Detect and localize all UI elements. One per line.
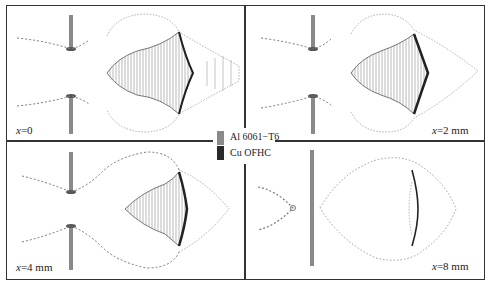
simulation-plot xyxy=(246,142,484,277)
legend-label-aluminum: Al 6061−T6 xyxy=(230,131,279,142)
panel-label: x=0 xyxy=(16,124,33,136)
variable-value: =0 xyxy=(21,124,33,136)
copper-swatch-icon xyxy=(217,146,224,160)
variable-value: =2 mm xyxy=(437,124,469,136)
aluminum-swatch-icon xyxy=(217,131,224,145)
panel-label: x=8 mm xyxy=(432,260,468,272)
simulation-plot xyxy=(246,6,484,141)
simulation-plot xyxy=(7,6,245,141)
panel-x4mm: x=4 mm xyxy=(7,142,245,277)
panel-label: x=2 mm xyxy=(432,124,468,136)
panel-x0: x=0 xyxy=(7,6,245,141)
simulation-plot xyxy=(7,142,245,277)
variable-value: =8 mm xyxy=(437,260,469,272)
panel-label: x=4 mm xyxy=(16,261,52,273)
material-legend: Al 6061−T6 Cu OFHC xyxy=(213,128,275,164)
legend-label-copper: Cu OFHC xyxy=(230,147,271,158)
variable-value: =4 mm xyxy=(21,261,53,273)
panel-x2mm: x=2 mm xyxy=(246,6,484,141)
panel-x8mm: x=8 mm xyxy=(246,142,484,277)
